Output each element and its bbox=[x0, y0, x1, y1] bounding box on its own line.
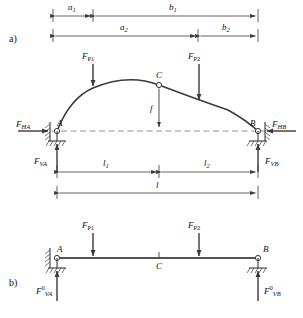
beam-node-label-C: C bbox=[156, 262, 162, 271]
dimension-row-a1-b1 bbox=[53, 9, 258, 22]
dimension-label-l1: l1 bbox=[103, 159, 109, 170]
dimension-label-b2: b2 bbox=[222, 23, 230, 34]
dimension-label-f: f bbox=[150, 104, 153, 113]
arch-node-label-A: A bbox=[57, 119, 63, 128]
dimension-label-l2: l2 bbox=[204, 159, 210, 170]
arch-reaction-label-FHA: FHA bbox=[16, 120, 30, 131]
dimension-label-a2: a2 bbox=[120, 23, 128, 34]
part-label-a: a) bbox=[9, 33, 17, 44]
beam-reaction-label-FVA0: F0VA bbox=[36, 285, 52, 298]
arch-reaction-label-FHB: FHB bbox=[272, 120, 286, 131]
arch-load-label-FP2: FP2 bbox=[188, 52, 200, 63]
beam-load-label-FP2: FP2 bbox=[188, 221, 200, 232]
crown-hinge-C bbox=[156, 82, 161, 87]
arch-reaction-label-FVA: FVA bbox=[34, 157, 47, 168]
dimension-row-l1-l2 bbox=[57, 165, 258, 178]
dimension-label-a1: a1 bbox=[68, 3, 76, 14]
arch-node-label-C: C bbox=[156, 71, 162, 80]
arch-node-label-B: B bbox=[250, 119, 256, 128]
dimension-label-b1: b1 bbox=[169, 3, 177, 14]
part-label-b: b) bbox=[9, 277, 17, 288]
arch-load-label-FP1: FP1 bbox=[82, 52, 94, 63]
beam-reaction-label-FVB0: F0VB bbox=[264, 285, 281, 298]
arch-reaction-label-FVB: FVB bbox=[265, 157, 278, 168]
beam-node-label-A: A bbox=[57, 245, 63, 254]
beam-node-label-B: B bbox=[263, 245, 269, 254]
dimension-label-l: l bbox=[156, 181, 159, 190]
beam-load-label-FP1: FP1 bbox=[82, 221, 94, 232]
